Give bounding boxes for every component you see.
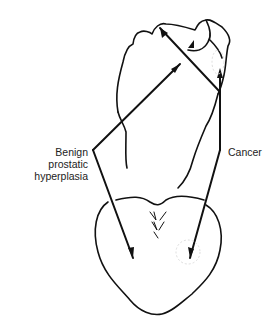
bph-arrow-upper xyxy=(93,64,180,150)
cancer-lesion-shading xyxy=(176,240,200,264)
arrowhead-icon xyxy=(128,247,134,258)
upper-organ-outline xyxy=(117,20,230,188)
shading-mark xyxy=(212,50,224,74)
bph-label: Benign prostatic hyperplasia xyxy=(20,146,88,182)
cancer-label: Cancer xyxy=(228,146,262,158)
arrowheads xyxy=(128,28,223,258)
bph-label-line1: Benign prostatic xyxy=(20,146,88,170)
arrows xyxy=(93,28,220,258)
arrowhead-icon xyxy=(188,40,194,48)
cancer-diagonal xyxy=(160,28,220,92)
bph-label-line2: hyperplasia xyxy=(20,170,88,182)
cancer-arrow-lower xyxy=(190,150,220,258)
